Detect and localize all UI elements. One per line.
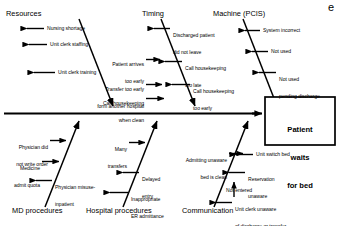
- cause-line-2: too early: [193, 106, 234, 112]
- cause-line-1: Inappropriate: [131, 197, 164, 203]
- cause-medicine-admit-quota: Medicine admit quota: [4, 155, 40, 200]
- cause-line-2: bed is clean: [164, 175, 227, 181]
- cause-nursing-shortage: Nursing shortage: [47, 26, 85, 32]
- cause-call-housekeeping-when-clean: Call housekeeping when clean: [74, 90, 144, 135]
- cause-line-2: pending discharge: [279, 94, 320, 100]
- cause-line-1: Not used: [279, 77, 320, 83]
- category-label-communication: Communication: [182, 207, 233, 215]
- cause-unit-clerk-staffing: Unit clerk staffing: [50, 42, 88, 48]
- cause-unit-clerk-training: Unit clerk training: [58, 70, 96, 76]
- category-label-resources: Resources: [6, 10, 41, 18]
- fishbone-diagram: Resources Timing Machine (PCIS) MD proce…: [0, 0, 346, 226]
- cause-line-1: Physician did: [4, 145, 48, 151]
- cause-line-1: Discharged patient: [173, 33, 215, 39]
- cause-system-incorrect: System incorrect: [263, 28, 300, 34]
- cause-line-2: admit quota: [4, 183, 40, 189]
- cause-admitting-unaware-bed-is-clean: Admitting unaware bed is clean: [164, 147, 227, 192]
- cause-call-housekeeping-too-early: Call housekeeping too early: [193, 78, 234, 123]
- cause-not-used: Not used: [271, 49, 291, 55]
- cause-line-1: Call housekeeping: [185, 66, 226, 72]
- cause-not-used-pending-discharge: Not used pending discharge: [279, 66, 320, 111]
- category-label-machine-pcis: Machine (PCIS): [213, 10, 265, 18]
- cause-line-2: inpatient: [55, 202, 95, 208]
- effect-line-2: waits: [265, 153, 335, 162]
- cause-line-1: Many: [97, 147, 127, 153]
- effect-line-3: for bed: [265, 181, 335, 190]
- cause-line-1: Call housekeeping: [74, 101, 144, 107]
- cause-many-transfers: Many transfers: [97, 136, 127, 181]
- cause-line-1: Call housekeeping: [193, 89, 234, 95]
- cause-line-1: Patient arrives: [88, 62, 144, 68]
- effect-statement: Patient waits for bed: [265, 107, 335, 208]
- cause-line-2: of discharge or transfer: [235, 224, 286, 226]
- cause-line-1: Medicine: [4, 166, 40, 172]
- cause-line-1: Admitting unaware: [164, 158, 227, 164]
- effect-line-1: Patient: [265, 125, 335, 134]
- cause-line-1: Delayed: [142, 177, 160, 183]
- cause-line-1: Physician misuse-: [55, 185, 95, 191]
- cause-line-2: transfers: [97, 164, 127, 170]
- category-label-timing: Timing: [142, 10, 164, 18]
- cause-physician-misuse-inpatient: Physician misuse- inpatient: [55, 174, 95, 219]
- cause-line-2: ER admittance: [131, 214, 164, 220]
- cause-line-2: when clean: [74, 118, 144, 124]
- corner-mark-label: e: [328, 2, 334, 13]
- cause-not-entered: Not entered: [226, 188, 252, 194]
- cause-inappropriate-er-admittance: Inappropriate ER admittance: [131, 186, 164, 226]
